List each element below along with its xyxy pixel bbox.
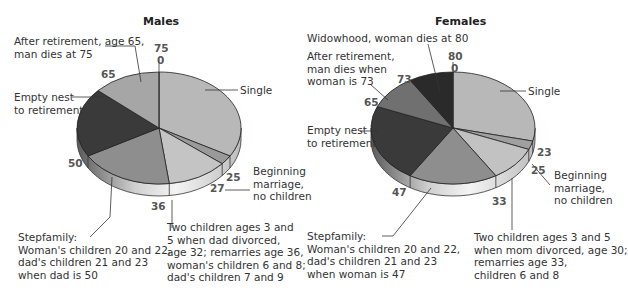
- age-73: 73: [397, 73, 412, 85]
- label-single: Single: [528, 85, 560, 98]
- label-after-retirement: After retirement, man dies when woman is…: [307, 50, 394, 88]
- age-65: 65: [364, 96, 379, 108]
- label-single: Single: [240, 84, 272, 97]
- age-25: 25: [531, 164, 546, 176]
- age-80: 80: [448, 50, 463, 62]
- age-0: 0: [451, 62, 458, 74]
- label-two-children: Two children ages 3 and 5 when dad divor…: [167, 221, 306, 284]
- age-50: 50: [68, 157, 83, 169]
- label-empty-nest: Empty nest to retirement: [14, 91, 83, 116]
- males-panel: Males After retirement, age 65, man dies…: [0, 0, 310, 295]
- label-empty-nest: Empty nest to retirement: [307, 124, 376, 149]
- age-47: 47: [392, 186, 407, 198]
- age-0: 0: [157, 54, 164, 66]
- age-27: 27: [210, 182, 225, 194]
- females-title: Females: [435, 15, 486, 28]
- label-stepfamily: Stepfamily: Woman's children 20 and 22, …: [307, 230, 460, 280]
- age-65: 65: [101, 68, 116, 80]
- age-23: 23: [537, 146, 552, 158]
- age-75: 75: [154, 42, 169, 54]
- age-36: 36: [151, 200, 166, 212]
- label-widowhood: Widowhood, woman dies at 80: [307, 32, 468, 45]
- label-two-children: Two children ages 3 and 5 when mom divor…: [474, 231, 628, 281]
- label-after-retirement: After retirement, age 65, man dies at 75: [14, 35, 144, 60]
- label-stepfamily: Stepfamily: Woman's children 20 and 22, …: [18, 231, 171, 281]
- age-25: 25: [226, 171, 241, 183]
- males-title: Males: [143, 15, 179, 28]
- age-33: 33: [492, 195, 507, 207]
- label-beginning-marriage: Beginning marriage, no children: [554, 169, 613, 207]
- females-panel: Females Widowhood, woman dies at 80 Afte…: [300, 0, 619, 295]
